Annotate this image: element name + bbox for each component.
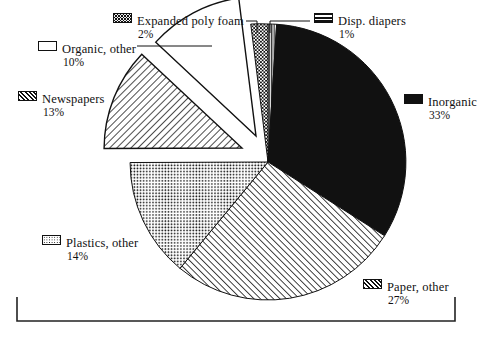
swatch-inorganic-icon [404,94,423,104]
figure-canvas: Expanded poly foam 2% Disp. diapers 1% O… [0,0,484,338]
label-newspapers[interactable]: Newspapers 13% [18,89,105,118]
label-newspapers-percent: 13% [43,106,105,118]
label-plastics-other-percent: 14% [67,250,138,262]
label-plastics-other[interactable]: Plastics, other 14% [42,233,138,262]
swatch-plastics-other-icon [42,235,61,245]
label-inorganic[interactable]: Inorganic 33% [404,92,477,121]
label-disp-diapers-name: Disp. diapers [338,14,406,28]
swatch-disp-diapers-icon [314,13,333,23]
label-paper-other-percent: 27% [388,294,449,306]
label-paper-other-name: Paper, other [387,280,449,294]
label-expanded-poly-foam[interactable]: Expanded poly foam 2% [113,11,244,40]
label-paper-other[interactable]: Paper, other 27% [363,277,449,306]
swatch-newspapers-icon [18,91,37,101]
label-disp-diapers[interactable]: Disp. diapers 1% [314,11,406,40]
pie-slice-expanded-poly-foam[interactable] [251,24,268,162]
label-organic-other[interactable]: Organic, other 10% [38,39,136,68]
label-organic-other-name: Organic, other [62,42,136,56]
label-plastics-other-name: Plastics, other [66,236,138,250]
swatch-expanded-poly-foam-icon [113,13,132,23]
label-expanded-poly-foam-name: Expanded poly foam [137,14,244,28]
swatch-paper-other-icon [363,279,382,289]
label-disp-diapers-percent: 1% [339,28,406,40]
label-organic-other-percent: 10% [63,56,136,68]
label-newspapers-name: Newspapers [42,92,105,106]
label-inorganic-percent: 33% [429,109,477,121]
label-inorganic-name: Inorganic [428,95,477,109]
label-expanded-poly-foam-percent: 2% [138,28,244,40]
swatch-organic-other-icon [38,41,57,51]
